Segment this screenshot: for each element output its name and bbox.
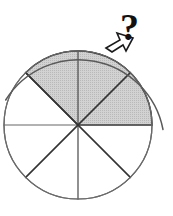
pie-fraction-figure: ? bbox=[0, 0, 173, 216]
sector-divider-lines bbox=[4, 51, 152, 199]
circle-diagram bbox=[0, 0, 173, 216]
question-mark-label: ? bbox=[120, 8, 139, 46]
